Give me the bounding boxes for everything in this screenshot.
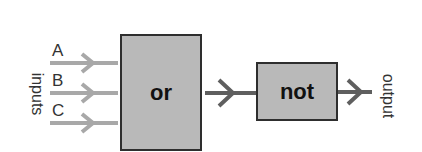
output-arrow (338, 80, 372, 104)
input-label-b: B (52, 72, 63, 89)
not-gate: not (256, 62, 338, 121)
or-gate-label: or (150, 80, 172, 106)
inputs-label: inputs (29, 73, 45, 116)
input-label-c: C (52, 102, 64, 119)
or-gate: or (120, 34, 202, 151)
not-gate-label: not (280, 79, 314, 105)
or-to-not-arrow (205, 80, 257, 106)
input-label-a: A (52, 42, 63, 59)
output-label: output (380, 74, 396, 118)
